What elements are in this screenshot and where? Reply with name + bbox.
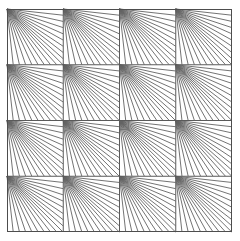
tile-r2-c3 bbox=[176, 121, 232, 177]
tile-r3-c3 bbox=[176, 176, 232, 232]
tile-r1-c1 bbox=[63, 65, 119, 121]
tile-r2-c0 bbox=[7, 121, 63, 177]
tile-r3-c2 bbox=[120, 176, 176, 232]
tile-r0-c0 bbox=[7, 9, 63, 65]
tile-r3-c0 bbox=[7, 176, 63, 232]
tile-r1-c3 bbox=[176, 65, 232, 121]
tile-r0-c1 bbox=[63, 9, 119, 65]
fan-tiling-diagram bbox=[0, 0, 240, 241]
tile-r2-c1 bbox=[63, 121, 119, 177]
tile-r3-c1 bbox=[63, 176, 119, 232]
tile-r0-c2 bbox=[120, 9, 176, 65]
tile-r1-c0 bbox=[7, 65, 63, 121]
tile-r2-c2 bbox=[120, 121, 176, 177]
figure-root bbox=[0, 0, 240, 241]
tile-r1-c2 bbox=[120, 65, 176, 121]
tile-r0-c3 bbox=[176, 9, 232, 65]
